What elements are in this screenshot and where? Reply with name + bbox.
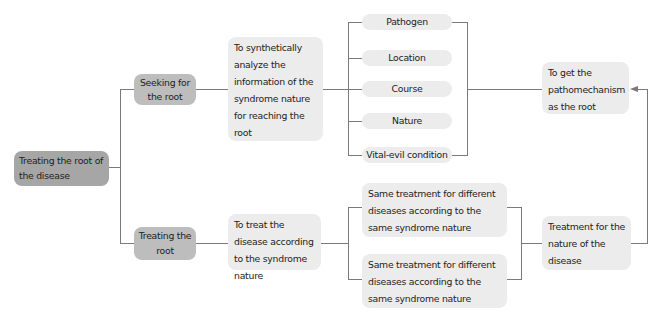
connector-factors-result [467,89,542,90]
connector-trunk [120,89,121,244]
connector-option-1-right [507,207,521,208]
factor-location: Location [362,50,452,66]
node-treat-by-syndrome: To treat the disease according to the sy… [228,214,321,270]
connector-trunk-treating [120,243,134,244]
factor-nature: Nature [362,113,452,129]
node-treatment-nature: Treatment for the nature of the disease [542,216,631,270]
connector-option-1-left [348,207,362,208]
connector-option-2-right [507,279,521,280]
node-treating-root: Treating the root [134,227,196,260]
connector-option-2-left [348,279,362,280]
connector-factor-2-left [348,58,362,59]
connector-treating-detail [196,243,228,244]
connector-feedback-vertical [647,89,648,244]
connector-options-left-bracket [348,207,349,280]
connector-detail-factors [322,89,348,90]
connector-factor-1-left [348,22,362,23]
connector-options-result [521,243,542,244]
connector-factor-1-right [452,22,467,23]
connector-root-trunk [108,167,120,168]
factor-pathogen: Pathogen [362,14,452,30]
node-same-treatment-2: Same treatment for different diseases ac… [362,254,507,308]
connector-factor-5-left [348,155,362,156]
factor-course: Course [362,81,452,97]
node-seeking-root: Seeking for the root [134,74,196,105]
node-same-treatment-1: Same treatment for different diseases ac… [362,183,507,237]
connector-factor-4-left [348,121,362,122]
connector-factor-5-right [452,155,467,156]
connector-seeking-detail [196,89,228,90]
connector-trunk-seeking [120,89,134,90]
node-synthesize: To synthetically analyze the information… [228,37,323,141]
node-root: Treating the root of the disease [14,151,109,186]
node-pathomechanism: To get the pathomechanism as the root [542,62,629,114]
arrow-left-icon [630,86,638,92]
factor-vital-evil: Vital-evil condition [362,147,452,163]
connector-feedback-bottom [631,243,648,244]
connector-factor-3-left [348,89,362,90]
connector-detail-options [320,243,348,244]
